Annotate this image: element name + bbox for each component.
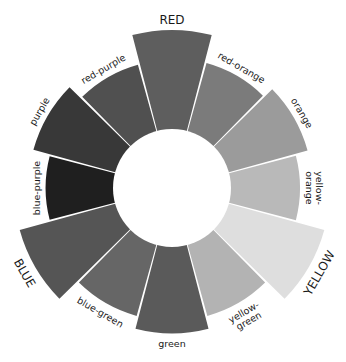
label-line: RED — [159, 13, 184, 27]
color-wheel: REDred-orangeorangeyellow-orangeYELLOWye… — [0, 0, 346, 362]
label-line: green — [158, 338, 185, 349]
label-yellow-orange: yellow-orange — [304, 171, 325, 205]
label-green: green — [158, 338, 185, 349]
label-blue-purple: blue-purple — [31, 161, 42, 216]
center-hole — [113, 129, 231, 247]
label-line: blue-purple — [31, 161, 42, 216]
label-red: RED — [159, 13, 184, 27]
label-line: orange — [304, 171, 315, 205]
